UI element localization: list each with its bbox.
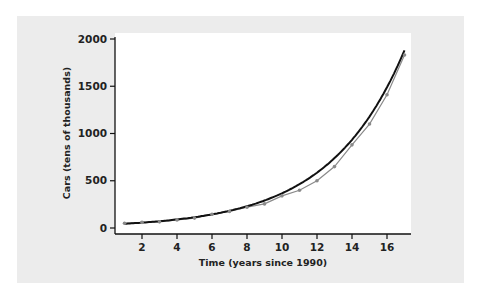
y-axis: 0500100015002000: [78, 33, 115, 235]
x-tick-label: 12: [310, 241, 325, 253]
x-tick-label: 6: [208, 241, 215, 253]
data-point: [193, 216, 197, 220]
x-tick-label: 4: [173, 241, 180, 253]
x-tick-label: 14: [345, 241, 360, 253]
data-point: [140, 221, 144, 225]
x-axis: 246810121416: [115, 234, 411, 253]
y-tick-label: 0: [100, 222, 107, 234]
data-point: [368, 122, 372, 126]
y-tick-label: 2000: [78, 33, 107, 45]
data-point: [333, 165, 337, 169]
y-tick-label: 1500: [78, 80, 107, 92]
data-point: [298, 188, 302, 192]
data-point: [175, 218, 179, 222]
x-axis-title: Time (years since 1990): [199, 257, 327, 268]
x-tick-label: 2: [138, 241, 145, 253]
y-tick-label: 500: [85, 174, 107, 186]
x-tick-label: 16: [380, 241, 395, 253]
data-point: [280, 194, 284, 198]
data-point: [385, 93, 389, 97]
x-tick-label: 8: [243, 241, 250, 253]
line-chart: 0500100015002000 246810121416 Cars (tens…: [0, 0, 483, 301]
y-tick-label: 1000: [78, 127, 107, 139]
y-axis-title: Cars (tens of thousands): [61, 67, 72, 199]
data-point: [263, 202, 267, 206]
data-point: [123, 221, 127, 225]
data-point: [158, 220, 162, 224]
data-point: [245, 205, 249, 209]
data-point: [350, 143, 354, 147]
data-point: [228, 210, 232, 214]
data-point: [315, 179, 319, 183]
x-tick-label: 10: [275, 241, 290, 253]
data-point: [403, 53, 407, 57]
data-point: [210, 212, 214, 216]
